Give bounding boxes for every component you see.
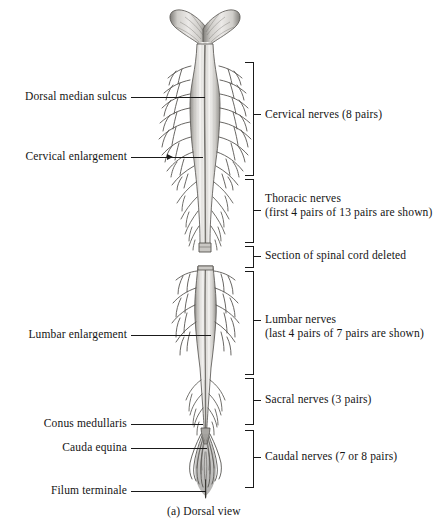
bracket-label-line1: Thoracic nerves	[265, 192, 432, 206]
bracket-section-deleted	[245, 246, 262, 268]
bracket-label-sacral-nerves: Sacral nerves (3 pairs)	[265, 393, 372, 407]
bracket-sacral-nerves	[245, 378, 262, 425]
bracket-spine	[253, 179, 254, 243]
bracket-tick	[253, 400, 261, 401]
bracket-lumbar-nerves	[245, 271, 262, 375]
bracket-label-cervical-nerves: Cervical nerves (8 pairs)	[265, 108, 382, 122]
cervical-thoracic-cord	[190, 44, 220, 252]
label-lumbar-enlargement: Lumbar enlargement	[8, 328, 127, 341]
bracket-arm-bottom	[245, 267, 254, 268]
leader-conus-medullaris	[131, 424, 203, 425]
bracket-arm-bottom	[245, 175, 254, 176]
arrowhead-cervical-enlargement	[167, 154, 173, 160]
leader-filum-terminale	[131, 491, 206, 492]
bracket-label-line1: Sacral nerves (3 pairs)	[265, 393, 372, 405]
bracket-label-line1: Cervical nerves (8 pairs)	[265, 108, 382, 120]
bracket-caudal-nerves	[245, 430, 262, 488]
label-dorsal-median-sulcus: Dorsal median sulcus	[8, 90, 127, 103]
bracket-thoracic-nerves	[245, 179, 262, 243]
bracket-label-thoracic-nerves: Thoracic nerves (first 4 pairs of 13 pai…	[265, 192, 432, 219]
leader-dorsal-median-sulcus	[131, 97, 205, 98]
bracket-tick	[253, 210, 261, 211]
label-cervical-enlargement: Cervical enlargement	[8, 150, 127, 163]
lumbosacral-cord	[195, 266, 217, 434]
bracket-label-line1: Lumbar nerves	[265, 313, 424, 327]
bracket-label-line1: Caudal nerves (7 or 8 pairs)	[265, 450, 397, 462]
bracket-cervical-nerves	[245, 62, 262, 176]
bracket-arm-bottom	[245, 242, 254, 243]
leader-cauda-equina	[131, 448, 207, 449]
bracket-tick	[253, 114, 261, 115]
bracket-spine	[253, 271, 254, 375]
bracket-label-section-deleted: Section of spinal cord deleted	[265, 249, 406, 263]
bracket-label-line1: Section of spinal cord deleted	[265, 249, 406, 261]
bracket-arm-bottom	[245, 374, 254, 375]
bracket-spine	[253, 430, 254, 488]
bracket-tick	[253, 320, 261, 321]
spinal-cord-figure: Dorsal median sulcus Cervical enlargemen…	[0, 0, 446, 528]
bracket-spine	[253, 246, 254, 268]
bracket-tick	[253, 457, 261, 458]
bracket-label-caudal-nerves: Caudal nerves (7 or 8 pairs)	[265, 450, 397, 464]
bracket-spine	[253, 62, 254, 176]
bracket-spine	[253, 378, 254, 425]
bracket-label-line2: (first 4 pairs of 13 pairs are shown)	[265, 206, 432, 220]
bracket-tick	[253, 256, 261, 257]
figure-caption: (a) Dorsal view	[167, 505, 241, 517]
label-filum-terminale: Filum terminale	[8, 484, 127, 497]
bracket-label-lumbar-nerves: Lumbar nerves (last 4 pairs of 7 pairs a…	[265, 313, 424, 340]
label-conus-medullaris: Conus medullaris	[8, 417, 127, 430]
bracket-arm-bottom	[245, 424, 254, 425]
leader-lumbar-enlargement	[131, 335, 211, 336]
label-cauda-equina: Cauda equina	[8, 441, 127, 454]
bracket-label-line2: (last 4 pairs of 7 pairs are shown)	[265, 327, 424, 341]
bracket-arm-bottom	[245, 487, 254, 488]
